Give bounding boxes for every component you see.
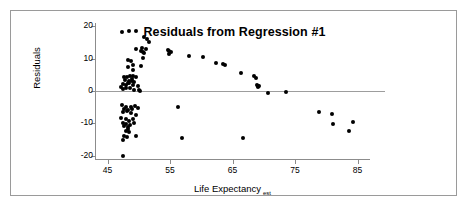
data-point — [239, 71, 243, 75]
y-tick-label: -10 — [53, 118, 93, 127]
data-point — [330, 112, 334, 116]
x-tick-mark — [170, 159, 171, 164]
data-point — [136, 106, 140, 110]
x-tick-mark — [108, 159, 109, 164]
y-tick-label: 10 — [53, 54, 93, 63]
figure-root: Residuals from Regression #1 Residuals L… — [0, 0, 469, 207]
data-point — [147, 40, 151, 44]
x-tick-label: 45 — [88, 166, 128, 175]
data-point — [351, 120, 355, 124]
x-axis-title: Life Expectancyest — [95, 183, 370, 196]
data-point — [119, 116, 123, 120]
data-point — [121, 138, 125, 142]
data-point — [134, 134, 138, 138]
data-point — [176, 105, 180, 109]
data-point — [131, 63, 135, 67]
data-point — [121, 87, 125, 91]
data-point — [121, 154, 125, 158]
data-point — [241, 136, 245, 140]
y-tick-label: -20 — [53, 151, 93, 160]
data-point — [131, 68, 135, 72]
x-axis-title-subscript: est — [261, 190, 271, 196]
data-point — [134, 75, 138, 79]
data-point — [257, 84, 261, 88]
x-tick-label: 75 — [275, 166, 315, 175]
data-point — [132, 121, 136, 125]
data-point — [130, 77, 134, 81]
data-point — [142, 51, 146, 55]
data-point — [120, 30, 124, 34]
x-tick-label: 65 — [213, 166, 253, 175]
data-point — [129, 111, 133, 115]
x-tick-mark — [358, 159, 359, 164]
y-tick-label: 20 — [53, 21, 93, 30]
data-point — [201, 55, 205, 59]
data-point — [347, 129, 351, 133]
data-point — [214, 61, 218, 65]
data-point — [127, 29, 131, 33]
x-tick-mark — [295, 159, 296, 164]
x-tick-label: 55 — [150, 166, 190, 175]
data-point — [126, 65, 130, 69]
data-point — [266, 91, 270, 95]
data-point — [125, 135, 129, 139]
x-tick-mark — [233, 159, 234, 164]
data-point — [331, 122, 335, 126]
data-point — [187, 54, 191, 58]
data-point — [167, 52, 171, 56]
data-point — [317, 110, 321, 114]
data-point — [132, 88, 136, 92]
x-tick-label: 85 — [338, 166, 378, 175]
y-tick-label: 0 — [53, 86, 93, 95]
data-point — [134, 113, 138, 117]
data-point — [127, 130, 131, 134]
data-point — [139, 64, 143, 68]
data-point — [138, 89, 142, 93]
data-point — [284, 90, 288, 94]
data-point — [180, 136, 184, 140]
y-axis-title: Residuals — [31, 47, 42, 89]
data-point — [126, 81, 130, 85]
data-point — [141, 56, 145, 60]
data-point — [254, 76, 258, 80]
data-point — [134, 29, 138, 33]
x-axis-title-text: Life Expectancy — [194, 183, 261, 194]
plot-area: 20100-10-20 4555657585 — [95, 23, 370, 159]
data-point — [223, 63, 227, 67]
data-point — [134, 47, 138, 51]
